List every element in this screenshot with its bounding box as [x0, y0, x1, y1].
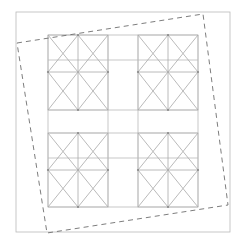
tile-top-right-vertex-dot-0: [167, 34, 169, 36]
tile-bottom-left-vertex-dot-1: [107, 169, 109, 171]
tile-bottom-left-vertex-dot-0: [77, 132, 79, 134]
tile-bottom-right: [138, 133, 198, 207]
tile-bottom-left-vertex-dot-2: [77, 206, 79, 208]
tile-top-left-vertex-dot-1: [107, 71, 109, 73]
technical-drawing: [0, 0, 246, 248]
tile-bottom-right-vertex-dot-2: [167, 206, 169, 208]
tile-bottom-right-vertex-dot-1: [197, 169, 199, 171]
tile-bottom-right-vertex-dot-3: [137, 169, 139, 171]
tile-top-left-vertex-dot-3: [47, 71, 49, 73]
figure-canvas: [0, 0, 246, 248]
tile-top-left-vertex-dot-0: [77, 34, 79, 36]
background: [0, 0, 246, 248]
tile-top-right-vertex-dot-3: [137, 71, 139, 73]
tile-bottom-left-vertex-dot-3: [47, 169, 49, 171]
tile-top-right-vertex-dot-1: [197, 71, 199, 73]
tile-top-right-vertex-dot-2: [167, 109, 169, 111]
tile-bottom-right-vertex-dot-0: [167, 132, 169, 134]
tile-top-left-vertex-dot-2: [77, 109, 79, 111]
tile-bottom-left: [48, 133, 108, 207]
